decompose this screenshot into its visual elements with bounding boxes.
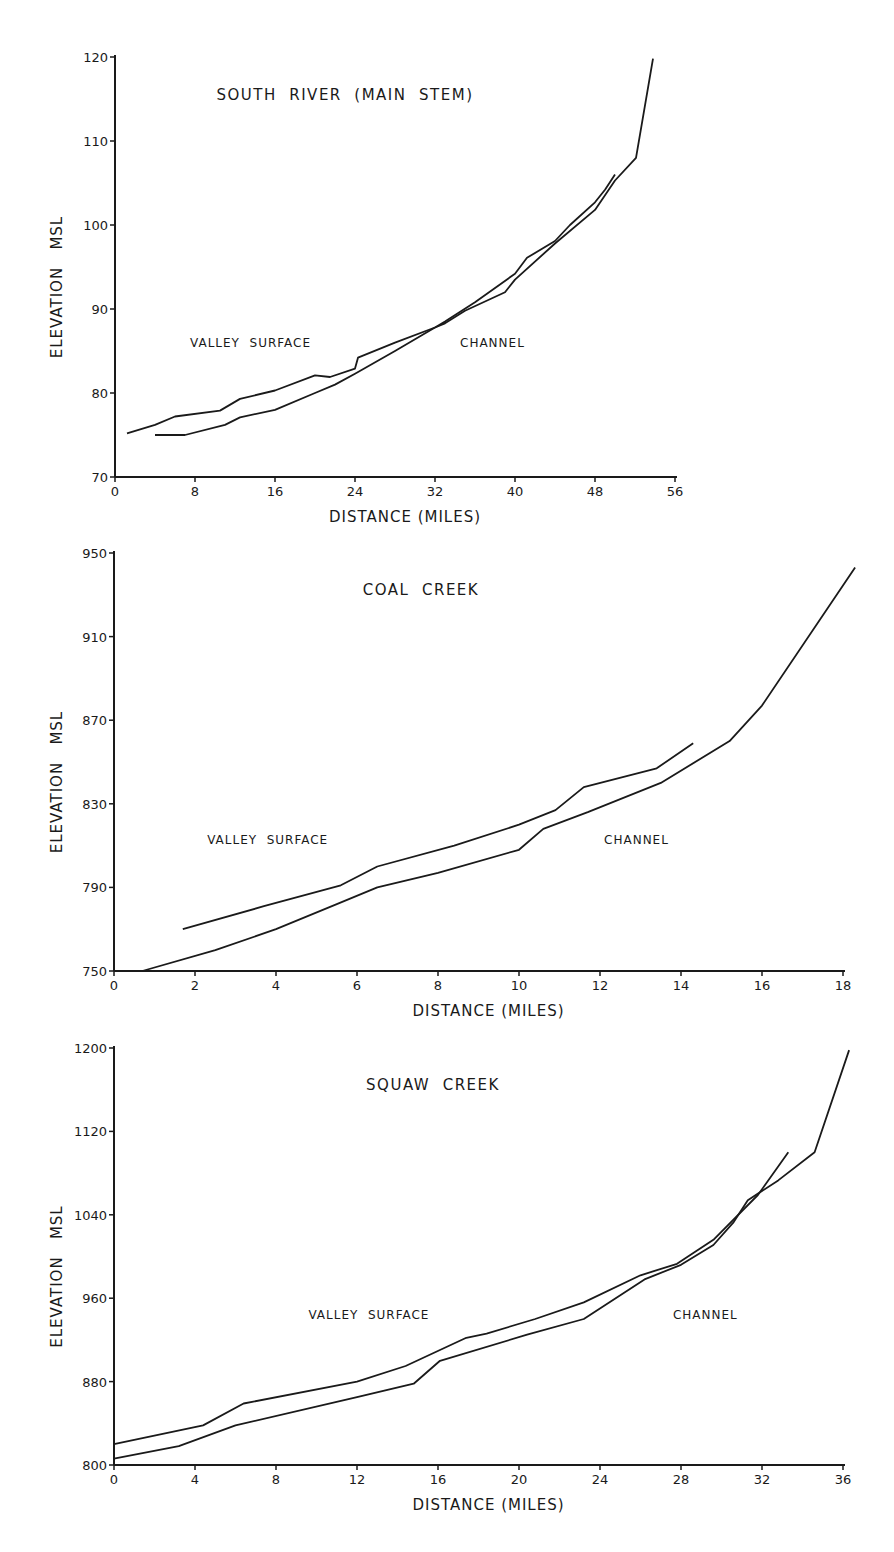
y-tick-label: 960: [82, 1291, 107, 1306]
y-tick-label: 120: [83, 50, 108, 65]
y-tick-label: 90: [91, 302, 108, 317]
line-channel: [114, 1050, 849, 1459]
y-tick-label: 70: [91, 470, 108, 485]
y-tick-label: 910: [82, 630, 107, 645]
x-tick-label: 20: [511, 1472, 528, 1487]
x-tick-label: 48: [587, 484, 604, 499]
x-tick-label: 8: [434, 978, 442, 993]
x-tick-label: 12: [592, 978, 609, 993]
y-tick-label: 100: [83, 218, 108, 233]
y-axis-title: ELEVATION MSL: [48, 216, 66, 358]
x-tick-label: 0: [110, 1472, 118, 1487]
y-tick-label: 870: [82, 713, 107, 728]
x-tick-label: 14: [673, 978, 690, 993]
series-label-channel: CHANNEL: [673, 1308, 738, 1322]
chart-title: SOUTH RIVER (MAIN STEM): [216, 86, 473, 104]
x-tick-label: 32: [427, 484, 444, 499]
line-valley-surface: [114, 1152, 788, 1444]
x-tick-label: 12: [349, 1472, 366, 1487]
x-axis-title: DISTANCE (MILES): [412, 1496, 564, 1514]
x-tick-label: 6: [353, 978, 361, 993]
x-tick-label: 0: [111, 484, 119, 499]
x-tick-label: 40: [507, 484, 524, 499]
x-tick-label: 16: [430, 1472, 447, 1487]
y-tick-label: 1200: [74, 1041, 107, 1056]
series-label-channel: CHANNEL: [604, 833, 669, 847]
y-tick-label: 800: [82, 1458, 107, 1473]
x-tick-label: 18: [835, 978, 852, 993]
x-tick-label: 56: [667, 484, 684, 499]
series-label-valley-surface: VALLEY SURFACE: [308, 1308, 429, 1322]
line-channel: [155, 59, 653, 435]
x-tick-label: 0: [110, 978, 118, 993]
x-tick-label: 8: [272, 1472, 280, 1487]
chart-title: COAL CREEK: [363, 581, 479, 599]
chart-south-river: 70809010011012008162432404856DISTANCE (M…: [48, 50, 683, 526]
chart-title: SQUAW CREEK: [366, 1076, 500, 1094]
x-tick-label: 4: [191, 1472, 199, 1487]
y-axis-title: ELEVATION MSL: [48, 711, 66, 853]
x-tick-label: 4: [272, 978, 280, 993]
x-tick-label: 8: [191, 484, 199, 499]
y-tick-label: 830: [82, 797, 107, 812]
y-tick-label: 1040: [74, 1208, 107, 1223]
y-tick-label: 950: [82, 546, 107, 561]
chart-coal-creek: 750790830870910950024681012141618DISTANC…: [48, 546, 855, 1020]
x-tick-label: 28: [673, 1472, 690, 1487]
line-valley-surface: [127, 175, 615, 434]
x-tick-label: 24: [592, 1472, 609, 1487]
y-tick-label: 880: [82, 1375, 107, 1390]
y-tick-label: 80: [91, 386, 108, 401]
x-tick-label: 2: [191, 978, 199, 993]
figure-canvas: 70809010011012008162432404856DISTANCE (M…: [0, 0, 894, 1552]
series-label-valley-surface: VALLEY SURFACE: [207, 833, 328, 847]
x-tick-label: 36: [835, 1472, 852, 1487]
x-tick-label: 10: [511, 978, 528, 993]
x-axis-title: DISTANCE (MILES): [412, 1002, 564, 1020]
y-tick-label: 1120: [74, 1124, 107, 1139]
y-tick-label: 750: [82, 964, 107, 979]
x-tick-label: 16: [267, 484, 284, 499]
x-tick-label: 32: [754, 1472, 771, 1487]
x-tick-label: 24: [347, 484, 364, 499]
series-label-valley-surface: VALLEY SURFACE: [190, 336, 311, 350]
series-label-channel: CHANNEL: [460, 336, 525, 350]
x-axis-title: DISTANCE (MILES): [329, 508, 481, 526]
x-tick-label: 16: [754, 978, 771, 993]
chart-squaw-creek: 80088096010401120120004812162024283236DI…: [48, 1041, 851, 1514]
y-tick-label: 790: [82, 880, 107, 895]
y-tick-label: 110: [83, 134, 108, 149]
y-axis-title: ELEVATION MSL: [48, 1205, 66, 1347]
